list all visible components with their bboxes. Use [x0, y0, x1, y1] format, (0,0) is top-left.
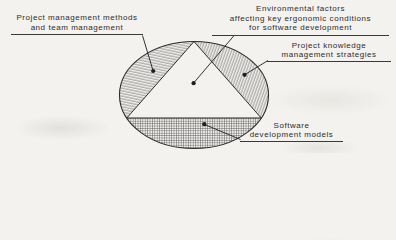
label-line: for software development — [212, 23, 389, 33]
label-line: management strategies — [267, 50, 391, 59]
diagram-canvas: Project management methods and team mana… — [0, 0, 396, 153]
label-software-models: Software development models — [240, 121, 343, 142]
label-line: Project knowledge — [267, 41, 391, 50]
label-line: and team management — [11, 23, 143, 33]
label-line: development models — [240, 130, 343, 139]
label-line: affecting key ergonomic conditions — [212, 14, 389, 24]
marker-dot-right-lune — [243, 73, 247, 77]
label-line: Environmental factors — [212, 4, 389, 14]
marker-dot-bottom-segment — [202, 122, 206, 126]
marker-dot-triangle-center — [192, 81, 196, 85]
label-line: Project management methods — [11, 13, 143, 23]
label-project-management: Project management methods and team mana… — [11, 13, 143, 35]
label-knowledge-management: Project knowledge management strategies — [267, 41, 391, 62]
marker-dot-left-lune — [151, 69, 155, 73]
label-environmental-factors: Environmental factors affecting key ergo… — [212, 4, 389, 36]
label-line: Software — [240, 121, 343, 130]
